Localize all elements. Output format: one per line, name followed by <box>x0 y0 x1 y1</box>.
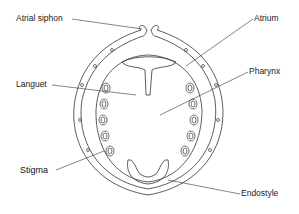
leader-pharynx <box>160 72 248 115</box>
leader-languet <box>52 85 136 95</box>
label-atrium: Atrium <box>254 14 279 23</box>
label-stigma: Stigma <box>20 166 48 175</box>
languet-shape <box>122 57 176 95</box>
label-languet: Languet <box>16 80 47 89</box>
label-atrial-siphon: Atrial siphon <box>16 14 63 23</box>
endostyle-shape <box>128 160 169 184</box>
tunicate-diagram <box>0 0 299 214</box>
outer-wall-right <box>148 30 223 195</box>
siphon-left <box>140 25 147 36</box>
leader-endostyle <box>168 180 240 194</box>
label-endostyle: Endostyle <box>241 189 278 198</box>
siphon-right <box>151 25 158 36</box>
label-pharynx: Pharynx <box>249 67 280 76</box>
pharynx-wall <box>96 55 202 182</box>
outer-wall-left <box>74 30 148 195</box>
leader-atrial-siphon <box>72 19 142 29</box>
leader-atrium <box>186 19 253 66</box>
